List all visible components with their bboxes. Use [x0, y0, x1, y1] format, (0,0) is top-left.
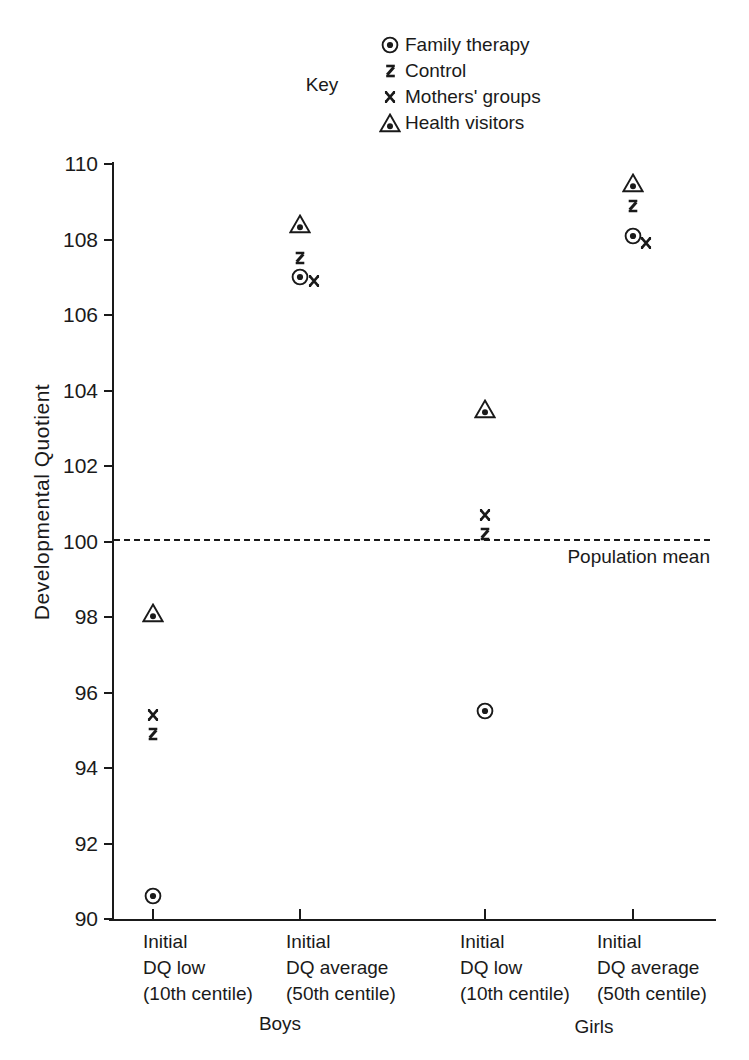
- y-tick: [104, 390, 113, 392]
- data-point-triangle-dot: [142, 603, 164, 623]
- x-category-label: InitialDQ average(50th centile): [597, 929, 707, 1007]
- y-tick-label: 94: [38, 756, 98, 780]
- y-tick-label: 92: [38, 832, 98, 856]
- x-category-label-line: Initial: [286, 929, 396, 955]
- sex-group-label: Boys: [259, 1013, 301, 1035]
- legend-item: Mothers' groups: [377, 84, 541, 110]
- x-category-label: InitialDQ low(10th centile): [460, 929, 570, 1007]
- legend-label: Control: [405, 60, 466, 82]
- data-point-x-cross: [146, 707, 160, 723]
- x-tick: [484, 909, 486, 919]
- legend-item: Health visitors: [377, 110, 541, 136]
- y-tick: [104, 616, 113, 618]
- y-tick: [104, 163, 113, 165]
- y-tick-label: 98: [38, 605, 98, 629]
- x-category-label-line: Initial: [597, 929, 707, 955]
- x-tick: [299, 909, 301, 919]
- legend-item: Family therapy: [377, 32, 541, 58]
- data-point-x-cross: [307, 273, 321, 289]
- data-point-z-hatch: [627, 198, 640, 214]
- y-tick-label: 108: [38, 228, 98, 252]
- y-tick: [104, 918, 113, 920]
- y-axis-title: Developmental Quotient: [30, 384, 54, 620]
- circle-dot-icon: [377, 35, 403, 55]
- x-category-label-line: DQ average: [597, 955, 707, 981]
- chart-figure: Key Family therapyControlMothers' groups…: [0, 0, 749, 1060]
- y-tick-label: 102: [38, 454, 98, 478]
- x-cross-icon: [377, 89, 403, 105]
- x-tick: [632, 909, 634, 919]
- key-title: Key: [306, 74, 339, 96]
- data-point-z-hatch: [147, 726, 160, 742]
- population-mean-label: Population mean: [540, 546, 710, 568]
- y-tick: [104, 541, 113, 543]
- y-tick-label: 90: [38, 907, 98, 931]
- x-category-label-line: Initial: [143, 929, 253, 955]
- y-tick: [104, 692, 113, 694]
- chart-legend: Family therapyControlMothers' groupsHeal…: [377, 32, 541, 136]
- data-point-circle-dot: [475, 701, 495, 721]
- y-tick-label: 104: [38, 379, 98, 403]
- data-point-x-cross: [639, 235, 653, 251]
- x-category-label-line: (50th centile): [597, 981, 707, 1007]
- y-tick-label: 100: [38, 530, 98, 554]
- data-point-z-hatch: [479, 526, 492, 542]
- y-tick-label: 96: [38, 681, 98, 705]
- y-tick: [104, 465, 113, 467]
- y-tick-label: 110: [38, 152, 98, 176]
- x-category-label: InitialDQ low(10th centile): [143, 929, 253, 1007]
- data-point-z-hatch: [294, 250, 307, 266]
- data-point-triangle-dot: [289, 214, 311, 234]
- y-tick: [104, 239, 113, 241]
- legend-item: Control: [377, 58, 541, 84]
- x-category-label-line: DQ average: [286, 955, 396, 981]
- y-tick: [104, 843, 113, 845]
- data-point-triangle-dot: [474, 399, 496, 419]
- x-category-label-line: (10th centile): [143, 981, 253, 1007]
- x-category-label-line: DQ low: [143, 955, 253, 981]
- x-category-label-line: (50th centile): [286, 981, 396, 1007]
- y-tick-label: 106: [38, 303, 98, 327]
- data-point-circle-dot: [143, 886, 163, 906]
- x-category-label-line: (10th centile): [460, 981, 570, 1007]
- population-mean-line: [114, 539, 713, 541]
- legend-label: Family therapy: [405, 34, 530, 56]
- legend-label: Health visitors: [405, 112, 524, 134]
- sex-group-label: Girls: [574, 1016, 613, 1038]
- x-category-label-line: Initial: [460, 929, 570, 955]
- x-category-label: InitialDQ average(50th centile): [286, 929, 396, 1007]
- triangle-dot-icon: [377, 113, 403, 133]
- legend-label: Mothers' groups: [405, 86, 541, 108]
- data-point-triangle-dot: [622, 173, 644, 193]
- z-hatch-icon: [377, 63, 403, 79]
- y-tick: [104, 314, 113, 316]
- y-tick: [104, 767, 113, 769]
- x-axis-line: [109, 919, 716, 921]
- data-point-x-cross: [478, 507, 492, 523]
- x-tick: [152, 909, 154, 919]
- x-category-label-line: DQ low: [460, 955, 570, 981]
